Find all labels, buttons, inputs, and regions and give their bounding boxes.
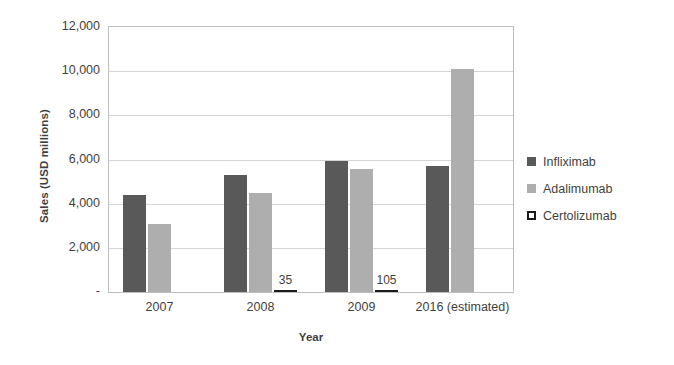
bar-group-bars: 35 [210,27,311,292]
legend-swatch-icon [527,184,536,193]
bar-group-bars [109,27,210,292]
x-axis-tick-labels: 2007200820092016 (estimated) [109,300,513,314]
legend-swatch-icon [527,211,536,220]
bar-certolizumab-2008[interactable]: 35 [274,290,297,293]
y-axis-tick-label: 10,000 [4,63,100,77]
bar-group [412,27,513,292]
bar-group: 35 [210,27,311,292]
legend-item-adalimumab[interactable]: Adalimumab [527,175,672,202]
bar-adalimumab-2007[interactable] [148,224,171,292]
bar-infliximab-2016[interactable] [426,166,449,292]
legend-item-label: Adalimumab [543,182,612,196]
bar-adalimumab-2009[interactable] [350,169,373,292]
bar-certolizumab-2009[interactable]: 105 [375,290,398,293]
y-axis-tick-label: - [4,284,100,298]
y-axis-tick-labels: 12,00010,0008,0006,0004,0002,000- [0,26,100,293]
bar-groups: 35105 [109,27,513,292]
bar-group: 105 [311,27,412,292]
legend-item-label: Certolizumab [543,209,617,223]
y-axis-tick-label: 4,000 [4,196,100,210]
x-axis-tick-label: 2007 [109,300,210,314]
bar-infliximab-2008[interactable] [224,175,247,292]
legend-item-infliximab[interactable]: Infliximab [527,148,672,175]
bar-value-label: 35 [279,273,292,287]
legend: InfliximabAdalimumabCertolizumab [527,148,672,229]
bar-infliximab-2009[interactable] [325,161,348,292]
legend-swatch-icon [527,157,536,166]
y-axis-tick-label: 8,000 [4,107,100,121]
bar-group [109,27,210,292]
legend-item-label: Infliximab [543,155,596,169]
bar-group-bars: 105 [311,27,412,292]
y-axis-tick-label: 6,000 [4,152,100,166]
x-axis-tick-label: 2016 (estimated) [412,300,513,314]
bar-adalimumab-2008[interactable] [249,193,272,292]
legend-item-certolizumab[interactable]: Certolizumab [527,202,672,229]
y-axis-tick-label: 2,000 [4,240,100,254]
bar-group-bars [412,27,513,292]
bar-value-label: 105 [376,273,396,287]
bar-infliximab-2007[interactable] [123,195,146,292]
bar-adalimumab-2016[interactable] [451,69,474,292]
y-axis-tick-label: 12,000 [4,19,100,33]
x-axis-title: Year [109,331,513,343]
bar-chart: Sales (USD millions) 12,00010,0008,0006,… [0,0,674,365]
x-axis-tick-label: 2009 [311,300,412,314]
x-axis-tick-label: 2008 [210,300,311,314]
